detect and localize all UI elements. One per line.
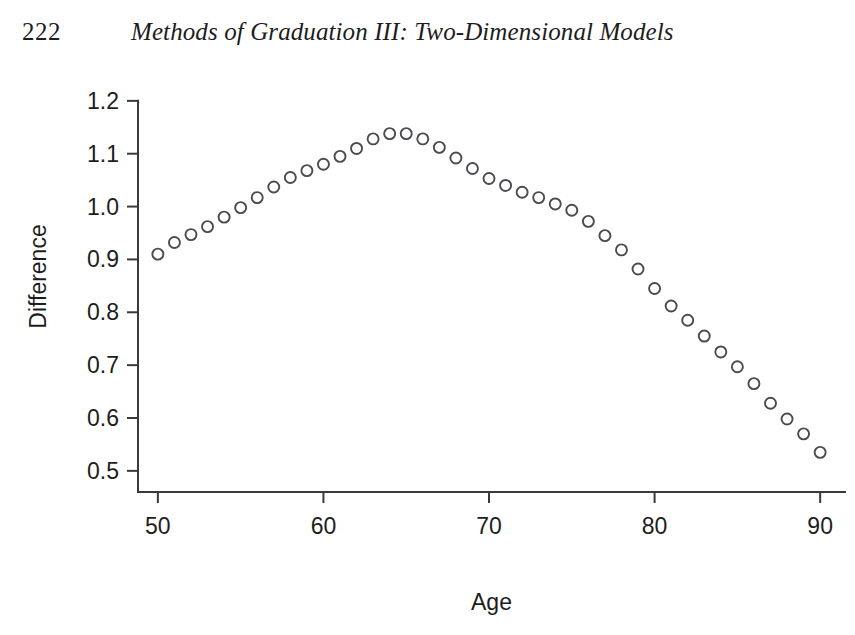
data-point-marker xyxy=(765,398,776,409)
data-point-marker xyxy=(450,152,461,163)
y-tick-label: 0.8 xyxy=(87,299,119,325)
x-tick-label: 90 xyxy=(807,513,833,539)
data-point-marker xyxy=(715,346,726,357)
data-point-marker xyxy=(815,447,826,458)
data-point-marker xyxy=(318,159,329,170)
page-number: 222 xyxy=(22,18,61,46)
data-point-marker xyxy=(500,180,511,191)
data-point-marker xyxy=(368,133,379,144)
x-tick-label: 70 xyxy=(476,513,502,539)
x-axis-title: Age xyxy=(471,589,512,615)
data-point-marker xyxy=(666,300,677,311)
page-running-head: 222 Methods of Graduation III: Two-Dimen… xyxy=(0,18,855,54)
y-tick-label: 0.7 xyxy=(87,352,119,378)
data-point-marker xyxy=(649,283,660,294)
data-point-marker xyxy=(533,192,544,203)
x-tick-label: 60 xyxy=(311,513,337,539)
data-point-marker xyxy=(417,133,428,144)
y-tick-label: 0.6 xyxy=(87,405,119,431)
x-tick-label: 80 xyxy=(642,513,668,539)
data-point-marker xyxy=(185,229,196,240)
data-point-marker xyxy=(682,315,693,326)
data-point-marker xyxy=(599,230,610,241)
y-tick-label: 1.2 xyxy=(87,88,119,114)
data-point-marker xyxy=(335,151,346,162)
data-point-marker xyxy=(202,221,213,232)
plot-canvas: 0.50.60.70.80.91.01.11.2 5060708090 Age … xyxy=(0,60,855,635)
data-point-series xyxy=(152,128,825,458)
data-point-marker xyxy=(467,163,478,174)
data-point-marker xyxy=(517,187,528,198)
data-point-marker xyxy=(351,143,362,154)
data-point-marker xyxy=(633,263,644,274)
data-point-marker xyxy=(566,205,577,216)
data-point-marker xyxy=(782,414,793,425)
data-point-marker xyxy=(748,378,759,389)
data-point-marker xyxy=(235,202,246,213)
data-point-marker xyxy=(550,198,561,209)
y-tick-label: 1.1 xyxy=(87,141,119,167)
scatter-plot-figure: 0.50.60.70.80.91.01.11.2 5060708090 Age … xyxy=(0,60,855,635)
data-point-marker xyxy=(384,128,395,139)
data-point-marker xyxy=(301,165,312,176)
running-title: Methods of Graduation III: Two-Dimension… xyxy=(131,18,674,46)
data-point-marker xyxy=(798,428,809,439)
x-tick-label: 50 xyxy=(145,513,171,539)
data-point-marker xyxy=(616,244,627,255)
y-tick-label: 0.5 xyxy=(87,458,119,484)
y-tick-label: 1.0 xyxy=(87,194,119,220)
data-point-marker xyxy=(401,128,412,139)
data-point-marker xyxy=(699,331,710,342)
data-point-marker xyxy=(434,142,445,153)
data-point-marker xyxy=(169,237,180,248)
data-point-marker xyxy=(268,182,279,193)
data-point-marker xyxy=(732,361,743,372)
y-axis-title: Difference xyxy=(25,224,51,328)
y-axis-ticks: 0.50.60.70.80.91.01.11.2 xyxy=(87,88,138,484)
data-point-marker xyxy=(152,249,163,260)
data-point-marker xyxy=(484,173,495,184)
data-point-marker xyxy=(252,192,263,203)
y-tick-label: 0.9 xyxy=(87,246,119,272)
data-point-marker xyxy=(583,216,594,227)
axes-group xyxy=(138,101,845,492)
x-axis-ticks: 5060708090 xyxy=(145,492,833,539)
data-point-marker xyxy=(219,212,230,223)
data-point-marker xyxy=(285,172,296,183)
